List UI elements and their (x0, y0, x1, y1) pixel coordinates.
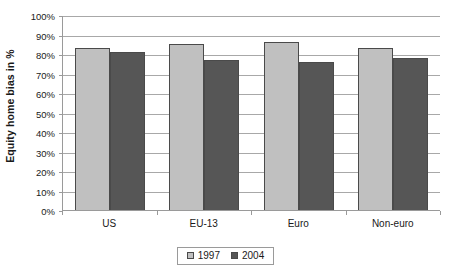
y-axis-title-text: Equity home bias in % (4, 49, 16, 163)
y-axis-tick-label: 0% (41, 206, 55, 217)
x-axis-tick-label: EU-13 (157, 216, 252, 234)
y-axis-tick-label: 20% (36, 167, 55, 178)
bar-non-euro-2004 (393, 58, 428, 210)
bars-layer (63, 16, 440, 210)
legend-entry-1997: 1997 (187, 250, 220, 261)
bar-non-euro-1997 (358, 48, 393, 210)
y-axis-tick-label: 70% (36, 69, 55, 80)
x-axis-tick-mark (157, 211, 158, 215)
x-axis-tick-label: Non-euro (346, 216, 441, 234)
legend-label: 1997 (198, 250, 220, 261)
bar-group (157, 16, 251, 210)
x-axis-tick-mark (251, 211, 252, 215)
x-axis-tick-mark (62, 211, 63, 215)
bar-eu-13-2004 (204, 60, 239, 210)
bar-euro-1997 (264, 42, 299, 210)
legend-swatch-2004 (231, 252, 238, 259)
y-axis-tick-labels: 0%10%20%30%40%50%60%70%80%90%100% (20, 10, 58, 216)
y-axis-tick-label: 50% (36, 108, 55, 119)
y-axis-tick-label: 10% (36, 186, 55, 197)
legend-label: 2004 (242, 250, 264, 261)
y-axis-tick-label: 80% (36, 50, 55, 61)
bar-us-2004 (110, 52, 145, 210)
x-axis-tick-label: Euro (251, 216, 346, 234)
y-axis-tick-label: 100% (31, 11, 55, 22)
x-axis-tick-labels: USEU-13EuroNon-euro (62, 216, 440, 234)
plot-area (62, 16, 440, 211)
bar-chart: Equity home bias in % 0%10%20%30%40%50%6… (0, 0, 451, 274)
legend: 19972004 (0, 247, 451, 265)
bar-us-1997 (75, 48, 110, 210)
bar-eu-13-1997 (169, 44, 204, 210)
x-axis-tick-label: US (62, 216, 157, 234)
y-axis-tick-label: 40% (36, 128, 55, 139)
x-axis-tick-mark (346, 211, 347, 215)
bar-group (346, 16, 440, 210)
legend-entry-2004: 2004 (231, 250, 264, 261)
y-axis-tick-label: 60% (36, 89, 55, 100)
bar-euro-2004 (299, 62, 334, 210)
bar-group (63, 16, 157, 210)
y-axis-title: Equity home bias in % (0, 0, 20, 212)
legend-swatch-1997 (187, 252, 194, 259)
x-axis-tick-mark (440, 211, 441, 215)
bar-group (252, 16, 346, 210)
y-axis-tick-label: 90% (36, 30, 55, 41)
y-axis-tick-label: 30% (36, 147, 55, 158)
legend-box: 19972004 (177, 247, 275, 265)
